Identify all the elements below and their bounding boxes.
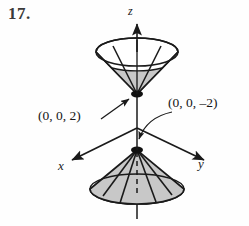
y-axis-label: y — [198, 156, 204, 172]
x-axis-label: x — [58, 158, 64, 174]
leader-lower-vertex — [139, 112, 172, 139]
y-axis — [137, 128, 204, 160]
lower-cone — [90, 147, 184, 204]
x-axis — [72, 128, 137, 160]
z-axis-label: z — [128, 4, 133, 19]
leader-upper-vertex — [101, 99, 129, 119]
upper-vertex-label: (0, 0, 2) — [38, 108, 81, 124]
figure-container: 17. — [0, 0, 249, 226]
lower-vertex-label: (0, 0, –2) — [168, 95, 218, 111]
